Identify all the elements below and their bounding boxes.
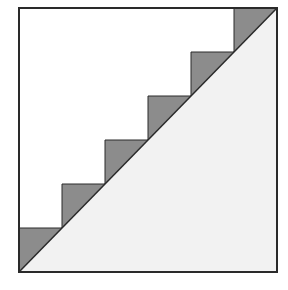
diagram-canvas xyxy=(0,0,288,290)
